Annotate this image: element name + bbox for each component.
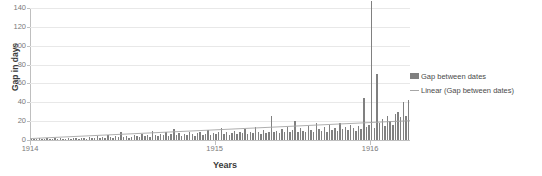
trendline-path <box>30 121 410 139</box>
legend-item-trend: Linear (Gap between dates) <box>410 84 540 96</box>
legend-bar-swatch-icon <box>410 73 419 79</box>
y-tick-label: 80 <box>4 61 26 69</box>
x-tick-mark <box>30 141 31 145</box>
legend-label-bars: Gap between dates <box>421 72 486 81</box>
y-tick-label: 60 <box>4 79 26 87</box>
y-tick-label: 20 <box>4 117 26 125</box>
y-tick-label: 40 <box>4 98 26 106</box>
chart-legend: Gap between dates Linear (Gap between da… <box>410 70 540 98</box>
trendline <box>30 8 410 140</box>
x-axis-title: Years <box>180 160 270 170</box>
legend-item-bars: Gap between dates <box>410 70 540 82</box>
x-tick-label: 1914 <box>10 144 50 153</box>
y-tick-label: 0 <box>4 136 26 144</box>
legend-line-swatch-icon <box>410 88 419 93</box>
x-axis-line <box>30 140 410 141</box>
y-tick-label: 100 <box>4 42 26 50</box>
legend-label-trend: Linear (Gap between dates) <box>421 86 514 95</box>
y-tick-label: 120 <box>4 23 26 31</box>
x-tick-label: 1915 <box>195 144 235 153</box>
plot-area <box>30 8 410 140</box>
x-tick-label: 1916 <box>350 144 390 153</box>
y-tick-label: 140 <box>4 4 26 12</box>
chart-container: Gap in days 020406080100120140 191419151… <box>0 0 542 176</box>
x-tick-mark <box>370 141 371 145</box>
x-tick-mark <box>215 141 216 145</box>
